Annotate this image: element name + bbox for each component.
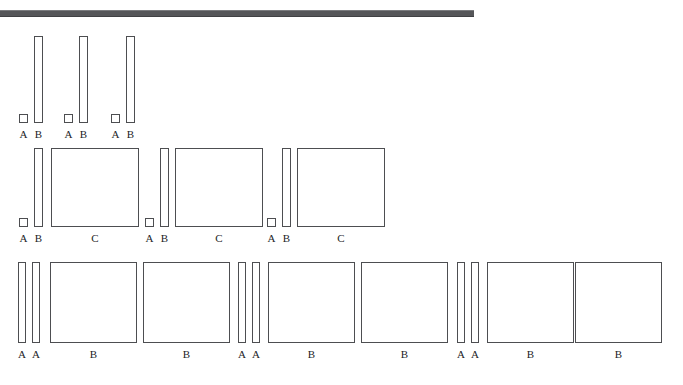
shape-rect-b [268, 262, 355, 343]
shape-rect-b [50, 262, 137, 343]
shape-rect-c [51, 148, 139, 227]
shape-label-b: B [267, 232, 307, 244]
shape-label-b: B [599, 348, 639, 360]
shape-rect-b [361, 262, 448, 343]
shape-rect-b [79, 36, 88, 123]
shape-rect-a [18, 262, 26, 343]
shape-label-c: C [75, 232, 115, 244]
shape-label-b: B [74, 348, 114, 360]
shape-label-b: B [19, 232, 59, 244]
shape-rect-a [457, 262, 465, 343]
shape-rect-b [282, 148, 291, 227]
shape-label-b: B [385, 348, 425, 360]
shape-rect-a [19, 114, 28, 123]
shape-rect-b [160, 148, 169, 227]
shape-label-b: B [167, 348, 207, 360]
shape-rect-b [34, 36, 43, 123]
shape-label-b: B [145, 232, 185, 244]
shape-label-a: A [16, 348, 56, 360]
shape-rect-a [32, 262, 40, 343]
shape-rect-a [19, 218, 28, 227]
shape-label-b: B [511, 348, 551, 360]
shape-rect-a [238, 262, 246, 343]
shape-rect-a [252, 262, 260, 343]
shape-rect-c [297, 148, 385, 227]
shape-label-b: B [111, 128, 151, 140]
shape-rect-a [471, 262, 479, 343]
shape-rect-a [64, 114, 73, 123]
shape-rect-a [145, 218, 154, 227]
shape-layer: ABABABABCABCABCAABBAABBAABB [0, 0, 683, 385]
shape-rect-b [34, 148, 43, 227]
shape-label-c: C [199, 232, 239, 244]
shape-label-b: B [292, 348, 332, 360]
shape-label-a: A [236, 348, 276, 360]
shape-rect-c [175, 148, 263, 227]
shape-rect-a [111, 114, 120, 123]
shape-label-c: C [321, 232, 361, 244]
diagram-canvas: ABABABABCABCABCAABBAABBAABB [0, 0, 683, 385]
shape-rect-b [126, 36, 135, 123]
shape-rect-a [267, 218, 276, 227]
shape-rect-b [143, 262, 230, 343]
shape-rect-b [487, 262, 574, 343]
shape-label-a: A [455, 348, 495, 360]
shape-rect-b [575, 262, 662, 343]
